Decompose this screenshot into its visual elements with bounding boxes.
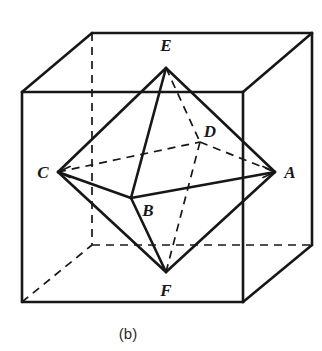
cube-hidden-edge-connector-bottom-left: [22, 245, 92, 302]
edge-F-C: [58, 172, 166, 272]
edge-C-B: [58, 172, 131, 198]
vertex-label-f: F: [160, 282, 171, 299]
edge-E-A: [166, 68, 275, 172]
edge-F-D: [166, 142, 200, 272]
cube-edge-connector-top-right: [243, 33, 312, 92]
vertex-label-e: E: [160, 37, 171, 54]
edge-E-C: [58, 68, 166, 172]
vertex-label-c: C: [37, 164, 48, 181]
edge-E-B: [131, 68, 166, 198]
edge-C-D: [58, 142, 200, 172]
vertex-label-b: B: [142, 202, 153, 219]
figure-caption: (b): [119, 326, 137, 341]
cube-edge-connector-bottom-right: [243, 245, 312, 302]
edge-B-A: [131, 172, 275, 198]
edge-E-D: [166, 68, 200, 142]
edge-F-A: [166, 172, 275, 272]
vertex-label-d: D: [204, 123, 216, 140]
cube-edge-connector-top-left: [22, 33, 92, 92]
vertex-label-a: A: [284, 164, 295, 181]
figure-container: ABCDEF (b): [0, 0, 322, 351]
